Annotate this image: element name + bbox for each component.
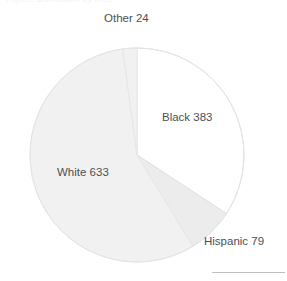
pie-label-hispanic: Hispanic 79: [204, 235, 264, 248]
pie-label-black: Black 383: [162, 111, 213, 124]
pie-label-white: White 633: [57, 166, 109, 179]
bottom-rule-divider: [212, 272, 285, 273]
pie-chart-figure: Figure: distribution by race Other 24 Bl…: [0, 0, 287, 281]
pie-label-other: Other 24: [104, 12, 149, 25]
pie-slice-group: [30, 48, 244, 262]
